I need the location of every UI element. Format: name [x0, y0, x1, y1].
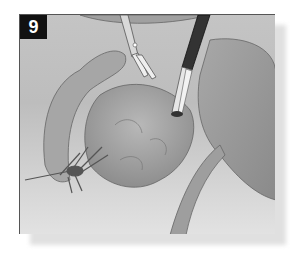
- forceps-icon: [120, 15, 156, 79]
- upper-tissue: [80, 15, 210, 23]
- step-number-badge: 9: [20, 15, 47, 39]
- surgical-illustration: [20, 15, 275, 234]
- illustration-frame: 9: [19, 14, 275, 234]
- uterus: [198, 39, 275, 200]
